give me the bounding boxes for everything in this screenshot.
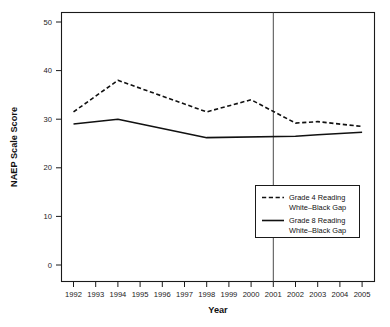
x-tick-label-1994: 1994 (109, 290, 126, 299)
chart-legend: Grade 4 Reading White–Black Gap Grade 8 … (256, 186, 360, 238)
naep-gap-line-chart: 0 10 20 30 40 50 NAEP Scale Score (0, 0, 390, 327)
chart-figure: 0 10 20 30 40 50 NAEP Scale Score (0, 0, 390, 327)
x-tick-label-1992: 1992 (65, 290, 82, 299)
plot-frame (62, 13, 375, 282)
x-tick-label-2005: 2005 (354, 290, 371, 299)
x-tick-label-1995: 1995 (132, 290, 149, 299)
x-tick-label-1997: 1997 (176, 290, 193, 299)
y-tick-label-10: 10 (44, 212, 52, 221)
y-axis: 0 10 20 30 40 50 (44, 18, 62, 270)
legend-label-grade8-line1: Grade 8 Reading (289, 216, 345, 225)
x-tick-label-1993: 1993 (87, 290, 104, 299)
x-axis-title: Year (208, 305, 228, 315)
y-tick-label-20: 20 (44, 163, 52, 172)
x-axis-ticks (74, 282, 363, 288)
legend-label-grade8-line2: White–Black Gap (289, 226, 346, 235)
x-tick-label-2004: 2004 (331, 290, 348, 299)
legend-label-grade4-line2: White–Black Gap (289, 203, 346, 212)
y-axis-title: NAEP Scale Score (9, 107, 19, 187)
legend-label-grade4-line1: Grade 4 Reading (289, 193, 345, 202)
x-tick-label-2000: 2000 (243, 290, 260, 299)
x-tick-label-2001: 2001 (265, 290, 282, 299)
x-tick-label-1996: 1996 (154, 290, 171, 299)
x-tick-label-1998: 1998 (198, 290, 215, 299)
x-tick-label-2003: 2003 (309, 290, 326, 299)
y-tick-label-40: 40 (44, 66, 52, 75)
y-tick-label-50: 50 (44, 18, 52, 27)
y-tick-label-30: 30 (44, 115, 52, 124)
x-tick-label-2002: 2002 (287, 290, 304, 299)
y-tick-label-0: 0 (48, 261, 52, 270)
x-tick-label-1999: 1999 (220, 290, 237, 299)
x-axis-labels: 1992 1993 1994 1995 1996 1997 1998 1999 … (65, 290, 371, 299)
